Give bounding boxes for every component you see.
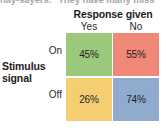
matrix-cell-off-yes: 26%	[66, 78, 112, 121]
matrix-cell-off-no: 74%	[113, 78, 159, 121]
row-group-title-line-1: Stimulus	[2, 61, 62, 73]
matrix-cell-value: 26%	[79, 94, 99, 105]
matrix-cell-value: 45%	[79, 49, 99, 60]
clipped-body-text: nay-sayers." They have many miss	[0, 0, 166, 6]
column-label-no: No	[113, 21, 159, 32]
row-group-title: Stimulus signal	[2, 61, 62, 84]
signal-detection-matrix-figure: nay-sayers." They have many miss Respons…	[0, 0, 166, 130]
row-label-on: On	[6, 45, 62, 56]
column-group-title: Response given	[66, 8, 160, 20]
row-group-title-line-2: signal	[2, 73, 62, 85]
matrix-cell-on-no: 55%	[113, 33, 159, 76]
matrix-grid: 45% 55% 26% 74%	[66, 33, 159, 121]
column-label-yes: Yes	[66, 21, 112, 32]
matrix-cell-value: 74%	[126, 94, 146, 105]
row-label-off: Off	[6, 89, 62, 100]
matrix-cell-value: 55%	[126, 49, 146, 60]
matrix-cell-on-yes: 45%	[66, 33, 112, 76]
